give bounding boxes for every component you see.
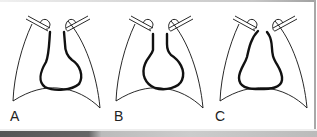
panel-label-c: C [215, 109, 225, 123]
panel-b-heart-contour [143, 34, 183, 89]
panel-c-heart-contour [239, 31, 282, 89]
chest-diagrams [0, 0, 317, 137]
panel-b-drawing [116, 16, 203, 108]
panel-label-b: B [114, 109, 123, 123]
figure-frame: A B C [0, 0, 317, 137]
panel-c-drawing [220, 16, 307, 108]
panel-a-drawing [13, 16, 100, 108]
panel-a-heart-contour [41, 32, 82, 90]
panel-label-a: A [10, 109, 19, 123]
